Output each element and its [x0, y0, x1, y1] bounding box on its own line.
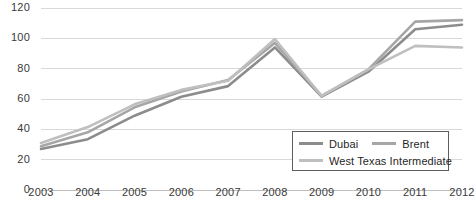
y-axis-tick-label: 80	[0, 62, 30, 74]
y-axis-tick-label: 0	[0, 183, 30, 195]
series-line	[41, 39, 462, 143]
legend-label-brent: Brent	[402, 138, 429, 150]
y-axis-tick-label: 60	[0, 92, 30, 104]
y-axis: 120100806040200	[0, 0, 30, 218]
x-axis-tick-label: 2004	[75, 186, 100, 198]
legend: Dubai Brent West Texas Intermediate	[292, 131, 449, 171]
x-axis-tick-label: 2009	[309, 186, 334, 198]
legend-label-dubai: Dubai	[329, 138, 358, 150]
legend-entry-wti[interactable]: West Texas Intermediate	[299, 155, 452, 167]
x-axis-tick-label: 2005	[122, 186, 147, 198]
legend-swatch-icon-brent	[372, 142, 396, 145]
legend-swatch-icon-dubai	[299, 142, 323, 145]
x-axis-tick-label: 2012	[449, 186, 474, 198]
y-axis-tick-label: 20	[0, 153, 30, 165]
y-axis-tick-label: 120	[0, 1, 30, 13]
legend-entry-brent[interactable]: Brent	[372, 138, 429, 150]
legend-entry-dubai[interactable]: Dubai	[299, 138, 358, 150]
legend-swatch-icon-wti	[299, 159, 323, 162]
x-axis-tick-label: 2010	[356, 186, 381, 198]
legend-label-wti: West Texas Intermediate	[329, 155, 452, 167]
legend-row-1: Dubai Brent	[299, 135, 442, 152]
x-axis-tick-label: 2007	[215, 186, 240, 198]
x-axis: 2003200420052006200720082009201020112012	[41, 186, 462, 206]
x-axis-tick-label: 2011	[403, 186, 427, 198]
series-line	[41, 20, 462, 146]
x-axis-tick-label: 2006	[169, 186, 194, 198]
x-axis-tick-label: 2003	[28, 186, 53, 198]
y-axis-tick-label: 40	[0, 122, 30, 134]
x-axis-tick-label: 2008	[262, 186, 287, 198]
legend-row-2: West Texas Intermediate	[299, 152, 442, 169]
y-axis-tick-label: 100	[0, 31, 30, 43]
